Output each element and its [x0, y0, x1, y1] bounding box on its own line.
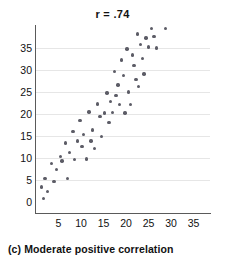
- figure-caption: (c) Moderate positive correlation: [8, 243, 174, 255]
- data-point: [152, 35, 155, 38]
- gridline: [36, 48, 210, 49]
- data-point: [127, 90, 130, 93]
- data-point: [68, 151, 71, 154]
- y-tick-label: 10: [8, 153, 32, 164]
- data-point: [109, 100, 112, 103]
- data-point: [96, 102, 99, 105]
- data-point: [123, 111, 126, 114]
- y-axis-line: [35, 25, 36, 214]
- y-tick-label: 5: [8, 175, 32, 186]
- data-point: [118, 103, 121, 106]
- data-point: [87, 110, 90, 113]
- data-point: [50, 162, 53, 165]
- gridline: [36, 136, 210, 137]
- scatter-plot-figure: r = .74 05101520253035 5101520253035 (c)…: [0, 0, 225, 269]
- x-axis-tick-labels: 5101520253035: [0, 218, 225, 232]
- data-point: [136, 32, 139, 35]
- data-point: [73, 158, 76, 161]
- data-point: [105, 91, 108, 94]
- data-point: [113, 70, 116, 73]
- data-point: [93, 147, 96, 150]
- y-tick-label: 30: [8, 65, 32, 76]
- data-point: [40, 185, 43, 188]
- data-point: [114, 94, 117, 97]
- y-tick-label: 25: [8, 87, 32, 98]
- data-point: [137, 85, 140, 88]
- data-point: [98, 115, 101, 118]
- data-point: [107, 121, 110, 124]
- gridline: [36, 92, 210, 93]
- y-tick-label: 35: [8, 43, 32, 54]
- data-point: [120, 58, 123, 61]
- data-point: [64, 141, 67, 144]
- data-point: [42, 197, 45, 200]
- x-tick-label: 35: [181, 218, 207, 229]
- data-point: [85, 157, 88, 160]
- x-axis-line: [35, 213, 211, 214]
- data-point: [147, 45, 150, 48]
- data-point: [132, 64, 135, 67]
- data-point: [155, 46, 158, 49]
- data-point: [129, 103, 132, 106]
- data-point: [80, 145, 83, 148]
- data-point: [139, 43, 142, 46]
- data-point: [52, 180, 55, 183]
- gridline: [36, 70, 210, 71]
- data-point: [43, 177, 46, 180]
- data-point: [91, 128, 94, 131]
- data-point: [55, 168, 58, 171]
- data-point: [60, 159, 63, 162]
- data-point: [76, 139, 79, 142]
- data-point: [134, 78, 137, 81]
- data-point: [116, 83, 119, 86]
- data-point: [122, 74, 125, 77]
- y-tick-label: 20: [8, 109, 32, 120]
- data-point: [150, 27, 153, 30]
- data-point: [141, 57, 144, 60]
- data-point: [131, 53, 134, 56]
- data-point: [78, 119, 81, 122]
- y-tick-label: 15: [8, 131, 32, 142]
- data-point: [59, 155, 62, 158]
- gridline: [36, 180, 210, 181]
- data-point: [144, 36, 147, 39]
- y-tick-label: 0: [8, 197, 32, 208]
- plot-area: [36, 25, 210, 213]
- data-point: [100, 135, 103, 138]
- data-point: [142, 72, 145, 75]
- data-point: [89, 139, 92, 142]
- data-point: [103, 111, 106, 114]
- data-point: [164, 27, 167, 30]
- chart-title: r = .74: [0, 8, 225, 20]
- data-point: [71, 130, 74, 133]
- data-point: [125, 47, 128, 50]
- data-point: [46, 190, 49, 193]
